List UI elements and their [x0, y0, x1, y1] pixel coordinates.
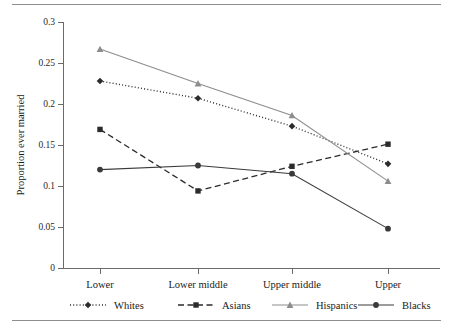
data-point-marker [195, 163, 201, 169]
y-tick-label: 0.3 [43, 17, 55, 27]
legend-item-hispanics[interactable]: Hispanics [272, 300, 357, 311]
legend-label: Whites [114, 300, 144, 311]
data-point-marker [385, 226, 391, 232]
data-point-marker [289, 123, 296, 130]
data-point-marker [97, 167, 103, 173]
x-category-label: Lower [86, 279, 114, 290]
data-point-marker [195, 188, 200, 193]
data-point-marker [289, 171, 295, 177]
data-point-marker [97, 127, 102, 132]
x-category-label: Upper [375, 279, 402, 290]
y-tick-label: 0.2 [43, 99, 55, 109]
data-point-marker [85, 302, 92, 309]
legend-label: Blacks [402, 300, 431, 311]
x-category-label: Upper middle [263, 279, 321, 290]
category-label-group: LowerLower middleUpper middleUpper [86, 279, 401, 290]
y-axis-title: Proportion ever married [15, 94, 26, 196]
data-point-marker [385, 161, 392, 168]
data-point-marker [195, 95, 202, 102]
data-point-marker [385, 141, 390, 146]
y-tick-label: 0 [50, 263, 55, 273]
legend-label: Asians [222, 300, 251, 311]
y-tick-label: 0.15 [38, 140, 55, 150]
series-blacks [97, 163, 391, 232]
line-chart: 00.050.10.150.20.250.3 Proportion ever m… [0, 0, 453, 331]
legend-item-blacks[interactable]: Blacks [358, 300, 431, 311]
y-tick-label: 0.05 [38, 222, 55, 232]
x-category-label: Lower middle [168, 279, 228, 290]
y-tick-label: 0.25 [38, 58, 55, 68]
data-point-marker [97, 78, 104, 85]
series-hispanics [97, 46, 392, 184]
legend-item-asians[interactable]: Asians [178, 300, 251, 311]
series-line [100, 129, 388, 191]
series-asians [97, 127, 390, 194]
series-group [97, 46, 392, 232]
y-tick-group: 00.050.10.150.20.250.3 [38, 17, 63, 273]
x-axis [64, 269, 441, 275]
legend-item-whites[interactable]: Whites [70, 300, 144, 311]
legend-label: Hispanics [316, 300, 357, 311]
data-point-marker [97, 46, 104, 52]
series-line [100, 49, 388, 181]
figure-container: 00.050.10.150.20.250.3 Proportion ever m… [0, 0, 453, 331]
data-point-marker [289, 164, 294, 169]
series-line [100, 166, 388, 229]
chart-legend: WhitesAsiansHispanicsBlacks [70, 300, 431, 311]
data-point-marker [193, 302, 198, 307]
data-point-marker [373, 302, 379, 308]
y-axis: 00.050.10.150.20.250.3 [38, 17, 63, 273]
y-tick-label: 0.1 [43, 181, 55, 191]
x-tick-group [101, 269, 389, 275]
data-point-marker [385, 178, 392, 184]
